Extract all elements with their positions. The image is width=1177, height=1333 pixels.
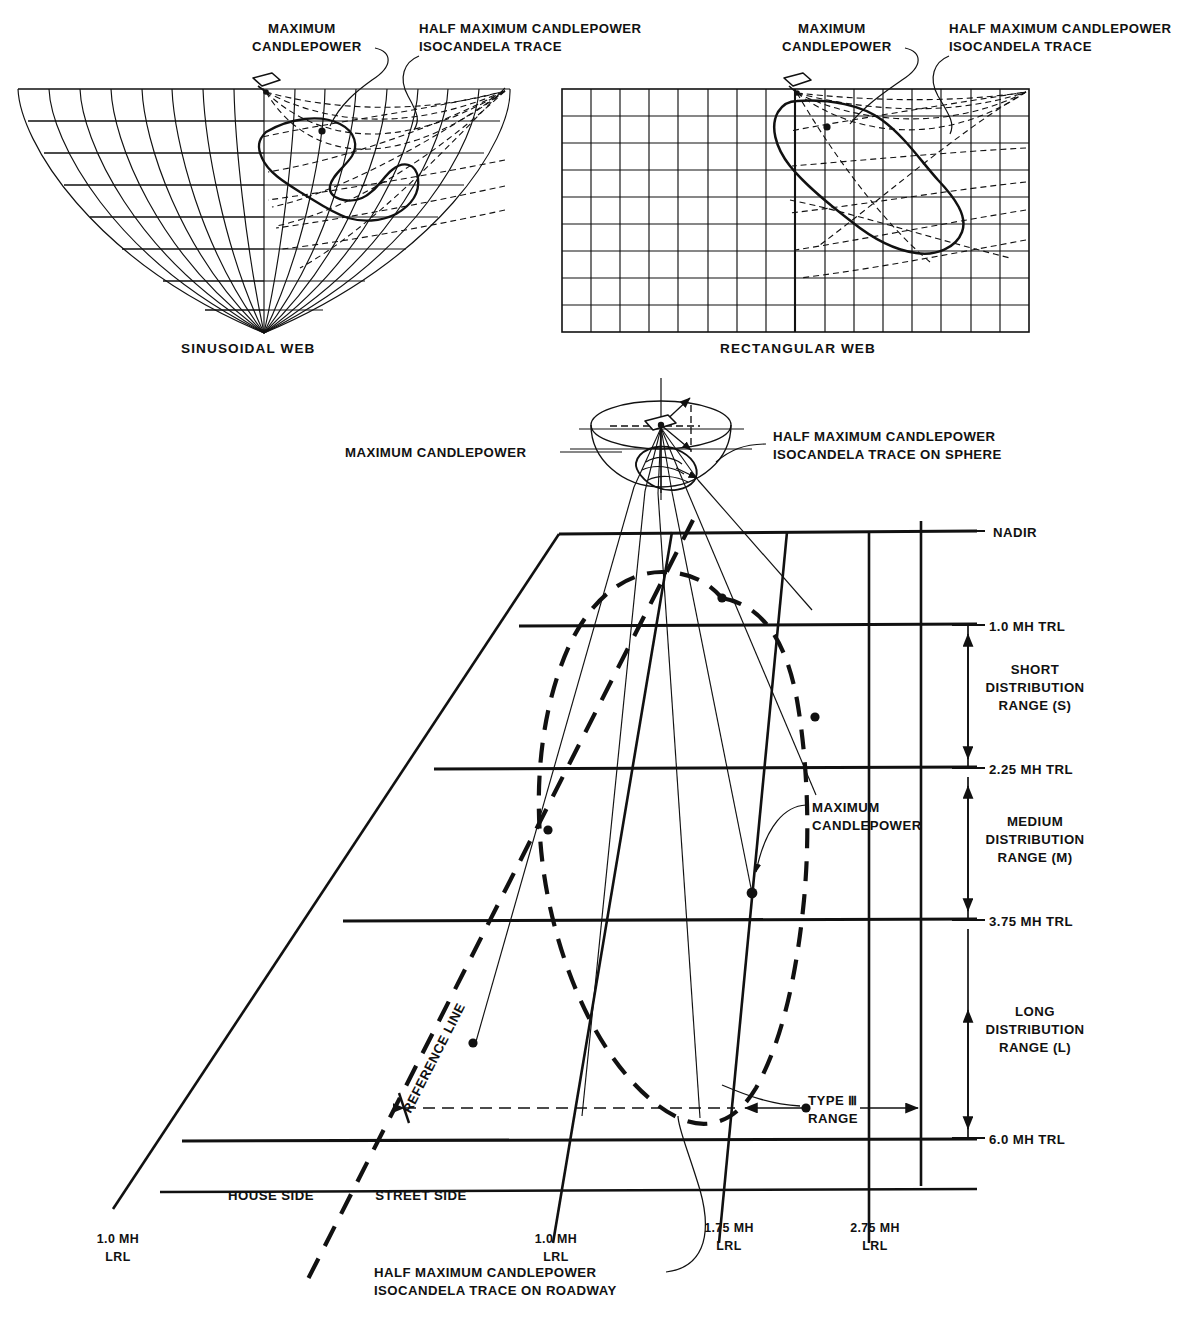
sinusoidal-luminaire-icon — [253, 73, 280, 95]
roadway-trl-6.0-line — [182, 1139, 977, 1141]
roadway-max-cp-callout: MAXIMUM CANDLEPOWER — [756, 800, 922, 872]
roadway-max-cp-label-l2: CANDLEPOWER — [812, 818, 922, 833]
range-long-l2: DISTRIBUTION — [985, 1022, 1084, 1037]
range-long-l1: LONG — [1015, 1004, 1055, 1019]
type-range-label-l2: RANGE — [808, 1111, 858, 1126]
roadway-trace-label-l1: HALF MAXIMUM CANDLEPOWER — [374, 1265, 597, 1280]
figure-root: MAXIMUM CANDLEPOWER HALF MAXIMUM CANDLEP… — [0, 0, 1177, 1333]
lrl-label-2-l2: LRL — [716, 1239, 741, 1253]
range-long-l3: RANGE (L) — [999, 1040, 1071, 1055]
sinusoidal-web-title: SINUSOIDAL WEB — [181, 341, 315, 356]
rectangular-web-title: RECTANGULAR WEB — [720, 341, 876, 356]
roadway-max-candlepower-dot — [747, 888, 758, 899]
range-short-l3: RANGE (S) — [999, 698, 1072, 713]
sphere-max-cp-label: MAXIMUM CANDLEPOWER — [345, 445, 526, 460]
trl-tick-label-1: 2.25 MH TRL — [989, 762, 1073, 777]
sinusoid-half-max-label-l2: ISOCANDELA TRACE — [419, 39, 562, 54]
roadway-reference-line — [306, 520, 693, 1283]
rectangular-isocandela-trace — [774, 101, 963, 254]
sinusoidal-web-panel — [18, 73, 510, 333]
rect-half-max-label-l2: ISOCANDELA TRACE — [949, 39, 1092, 54]
sinusoidal-max-candlepower-dot — [318, 127, 325, 134]
rectangular-max-candlepower-dot — [823, 123, 830, 130]
lrl-label-1-l1: 1.0 MH — [535, 1232, 577, 1246]
sinusoid-half-max-label-l1: HALF MAXIMUM CANDLEPOWER — [419, 21, 642, 36]
sphere-isocandela-patch-inner — [642, 457, 688, 482]
rectangular-luminaire-icon — [784, 73, 811, 96]
reference-line-label: REFERENCE LINE — [400, 1000, 468, 1115]
sinusoidal-web-grid — [18, 89, 510, 333]
roadway-trl-2.25-line — [434, 767, 977, 769]
roadway-lrl-street-1.0 — [553, 532, 672, 1243]
trl-tick-label-0: 1.0 MH TRL — [989, 619, 1065, 634]
range-medium-l2: DISTRIBUTION — [985, 832, 1084, 847]
trl-nadir-label: NADIR — [993, 525, 1037, 540]
range-short-l1: SHORT — [1011, 662, 1059, 677]
sinusoid-max-cp-label-l1: MAXIMUM — [268, 21, 336, 36]
trl-tick-label-2: 3.75 MH TRL — [989, 914, 1073, 929]
lrl-label-2-l1: 1.75 MH — [704, 1221, 754, 1235]
lrl-label-1-l2: LRL — [543, 1250, 568, 1264]
range-medium-l1: MEDIUM — [1007, 814, 1063, 829]
roadway-lrl-house-1.0 — [113, 534, 559, 1209]
roadway-trace-label-l2: ISOCANDELA TRACE ON ROADWAY — [374, 1283, 617, 1298]
roadway-trace-points — [468, 593, 819, 1112]
lrl-label-0-l2: LRL — [105, 1250, 130, 1264]
sinusoid-max-cp-label-l2: CANDLEPOWER — [252, 39, 362, 54]
type-range-label-l1: TYPE Ⅲ — [808, 1093, 858, 1108]
sphere-patch-arrow — [676, 468, 697, 478]
rectangular-web-grid — [562, 89, 1029, 332]
range-medium-l3: RANGE (M) — [997, 850, 1072, 865]
sphere-half-max-label-l1: HALF MAXIMUM CANDLEPOWER — [773, 429, 996, 444]
trl-tick-label-3: 6.0 MH TRL — [989, 1132, 1065, 1147]
trl-axis — [921, 531, 985, 1138]
house-side-label: HOUSE SIDE — [228, 1188, 314, 1203]
lrl-label-0-l1: 1.0 MH — [97, 1232, 139, 1246]
range-short-l2: DISTRIBUTION — [985, 680, 1084, 695]
street-side-label: STREET SIDE — [375, 1188, 466, 1203]
rect-max-cp-label-l1: MAXIMUM — [798, 21, 866, 36]
illustration-canvas: MAXIMUM CANDLEPOWER HALF MAXIMUM CANDLEP… — [0, 0, 1177, 1333]
rectangular-web-panel — [562, 73, 1029, 332]
roadway-trl-1.0-line — [519, 624, 977, 626]
roadway-isocandela-trace — [539, 572, 808, 1124]
roadway-trl-3.75-line — [343, 919, 977, 921]
roadway-max-cp-label-l1: MAXIMUM — [812, 800, 880, 815]
lrl-label-3-l2: LRL — [862, 1239, 887, 1253]
sphere-half-max-label-l2: ISOCANDELA TRACE ON SPHERE — [773, 447, 1002, 462]
rect-max-cp-label-l2: CANDLEPOWER — [782, 39, 892, 54]
rect-half-max-label-l1: HALF MAXIMUM CANDLEPOWER — [949, 21, 1172, 36]
lrl-label-3-l1: 2.75 MH — [850, 1221, 900, 1235]
